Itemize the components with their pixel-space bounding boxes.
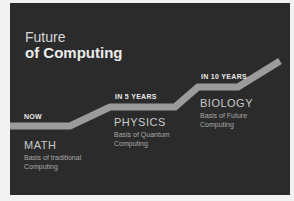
stage-desc-biology: Basis of Future Computing [200, 111, 270, 129]
stage-label-in-10-years: IN 10 YEARS [201, 73, 247, 80]
stage-label-in-5-years: IN 5 YEARS [115, 93, 157, 100]
stage-desc-math: Basis of traditional Computing [24, 153, 94, 171]
stage-name-math: MATH [24, 139, 56, 151]
future-of-computing-panel: Future of Computing NOW MATH Basis of tr… [10, 3, 290, 195]
stage-label-now: NOW [24, 113, 42, 120]
stage-name-physics: PHYSICS [114, 116, 166, 128]
stage-desc-physics: Basis of Quantum Computing [114, 130, 184, 148]
stage-name-biology: BIOLOGY [200, 97, 253, 109]
